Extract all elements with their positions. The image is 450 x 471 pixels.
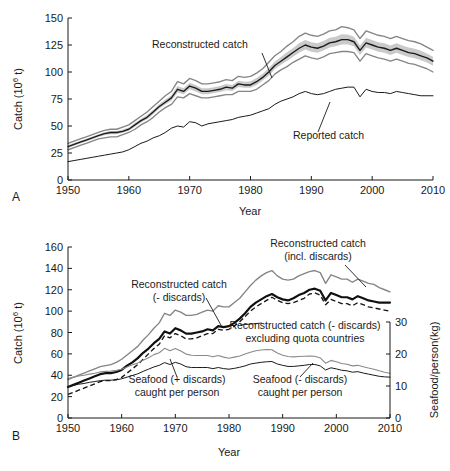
panel-a-letter: A <box>12 190 20 204</box>
leader-reconstructed-incl-discards <box>345 265 366 287</box>
panel-b: 1950196019701980199020002010020406080100… <box>0 235 450 471</box>
y-tick-label: 25 <box>51 147 63 159</box>
annotation-seafood-plus-discards-line1: Seafood (+ discards) <box>128 373 225 385</box>
svg-text:Catch (106 t): Catch (106 t) <box>11 68 24 130</box>
annotation-reported-catch: Reported catch <box>293 129 364 141</box>
figure-container: 1950196019701980199020002010025507510012… <box>0 0 450 471</box>
x-tick-label: 1990 <box>299 184 323 196</box>
panel-a-y-axis-title: Catch (106 t) <box>11 68 24 130</box>
annotation-seafood-minus-discards-line1: Seafood (- discards) <box>253 373 348 385</box>
x-tick-label: 2010 <box>421 184 445 196</box>
x-tick-label: 1990 <box>270 422 294 434</box>
x-tick-label: 1970 <box>177 184 201 196</box>
leader-reported-catch <box>318 102 330 132</box>
x-tick-label: 1960 <box>109 422 133 434</box>
y-tick-label: 125 <box>45 39 63 51</box>
panel-b-y-axis-title: Catch (106 t) <box>11 302 24 364</box>
panel-a-x-axis-title: Year <box>239 205 262 217</box>
y-tick-label: 160 <box>45 241 63 253</box>
annotation-reconstructed-excl-quota-line2: excluding quota countries <box>245 332 364 344</box>
y-tick-label: 0 <box>57 174 63 186</box>
y-tick-right-label: 0 <box>395 412 401 424</box>
y-tick-right-label: 10 <box>395 380 407 392</box>
annotation-seafood-minus-discards-line2: caught per person <box>258 386 343 398</box>
series-line-reported-catch <box>68 87 433 162</box>
annotation-reconstructed-excl-quota-line1: Reconstructed catch (- discards) <box>229 319 380 331</box>
y-tick-label: 0 <box>57 412 63 424</box>
x-tick-label: 1960 <box>117 184 141 196</box>
x-tick-label: 1980 <box>238 184 262 196</box>
y-tick-label: 60 <box>51 348 63 360</box>
y-tick-label: 150 <box>45 12 63 24</box>
y-tick-label: 20 <box>51 391 63 403</box>
y-tick-label: 75 <box>51 93 63 105</box>
x-tick-label: 1970 <box>163 422 187 434</box>
annotation-seafood-plus-discards-line2: caught per person <box>135 386 220 398</box>
y-tick-label: 120 <box>45 284 63 296</box>
annotation-reconstructed-incl-discards-line2: (incl. discards) <box>284 250 352 262</box>
panel-b-letter: B <box>12 429 20 443</box>
x-tick-label: 1980 <box>217 422 241 434</box>
panel-a: 1950196019701980199020002010025507510012… <box>0 0 450 235</box>
panel-b-x-axis-title: Year <box>218 446 241 458</box>
svg-text:Catch (106 t): Catch (106 t) <box>11 302 24 364</box>
y-tick-label: 100 <box>45 305 63 317</box>
annotation-reconstructed-minus-discards-line1: Reconstructed catch <box>131 278 227 290</box>
y-tick-label: 50 <box>51 120 63 132</box>
y-tick-label: 40 <box>51 369 63 381</box>
panel-b-y-axis-right-title: Seafood/person(kg) <box>428 322 440 419</box>
annotation-reconstructed-minus-discards-line2: (- discards) <box>153 291 206 303</box>
series-line <box>68 51 433 149</box>
y-tick-label: 80 <box>51 327 63 339</box>
x-tick-label: 2000 <box>360 184 384 196</box>
panel-a-chart: 1950196019701980199020002010025507510012… <box>0 0 450 235</box>
y-tick-label: 140 <box>45 262 63 274</box>
x-tick-label: 2000 <box>324 422 348 434</box>
y-tick-label: 100 <box>45 66 63 78</box>
svg-text:Seafood/person(kg): Seafood/person(kg) <box>428 322 440 419</box>
leader-reconstructed-minus-discards <box>206 298 222 327</box>
y-tick-right-label: 20 <box>395 348 407 360</box>
panel-b-chart: 1950196019701980199020002010020406080100… <box>0 235 450 471</box>
annotation-reconstructed-catch: Reconstructed catch <box>152 38 248 50</box>
annotation-reconstructed-incl-discards-line1: Reconstructed catch <box>270 237 366 249</box>
y-tick-right-label: 30 <box>395 316 407 328</box>
